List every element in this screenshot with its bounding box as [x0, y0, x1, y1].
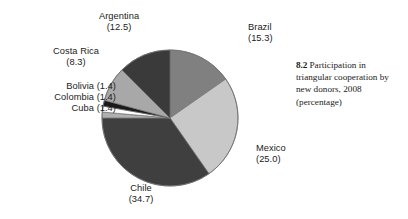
- slice-label-colombia-value: (1.4): [97, 92, 116, 102]
- slice-label-chile: Chile (34.7): [112, 183, 170, 206]
- slice-label-cuba: Cuba (1.4): [6, 103, 116, 114]
- figure-page: Argentina (12.5) Brazil (15.3) Costa Ric…: [0, 0, 408, 219]
- pie-chart: [96, 44, 244, 192]
- slice-label-mexico-value: (25.0): [256, 154, 322, 165]
- slice-label-bolivia: Bolivia (1.4): [6, 81, 116, 92]
- slice-label-brazil-name: Brazil: [248, 22, 308, 33]
- slice-label-colombia: Colombia (1.4): [6, 92, 116, 103]
- slice-label-argentina: Argentina (12.5): [82, 11, 156, 34]
- slice-label-mexico: Mexico (25.0): [256, 143, 322, 166]
- figure-caption: 8.2 Participation in triangular cooperat…: [296, 59, 400, 108]
- slice-label-chile-name: Chile: [112, 183, 170, 194]
- pie-chart-svg: [96, 44, 244, 192]
- slice-label-chile-value: (34.7): [112, 194, 170, 205]
- slice-label-cuba-value: (1.4): [97, 103, 116, 113]
- slice-label-mexico-name: Mexico: [256, 143, 322, 154]
- figure-caption-number: 8.2: [296, 60, 307, 70]
- slice-label-cuba-name: Cuba: [72, 103, 94, 113]
- slice-label-brazil: Brazil (15.3): [248, 22, 308, 45]
- slice-label-bolivia-name: Bolivia: [66, 81, 94, 91]
- slice-label-colombia-name: Colombia: [54, 92, 94, 102]
- figure-caption-text: Participation in triangular cooperation …: [296, 60, 389, 107]
- slice-label-argentina-name: Argentina: [82, 11, 156, 22]
- slice-label-argentina-value: (12.5): [82, 22, 156, 33]
- slice-label-bolivia-value: (1.4): [97, 81, 116, 91]
- slice-label-costa-rica: Costa Rica (8.3): [40, 46, 112, 69]
- slice-label-brazil-value: (15.3): [248, 33, 308, 44]
- slice-label-costa-rica-value: (8.3): [40, 57, 112, 68]
- slice-label-costa-rica-name: Costa Rica: [40, 46, 112, 57]
